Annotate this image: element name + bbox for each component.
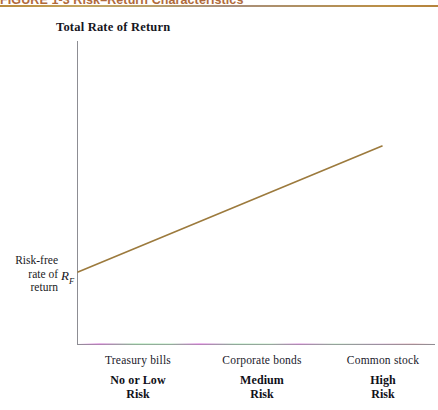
figure-top-rule [0,5,438,7]
category-risk-line1: High [330,373,436,387]
category-common-stock: Common stock High Risk [330,354,436,401]
total-return-line [78,146,382,272]
category-risk-label: High Risk [330,373,436,401]
risk-free-symbol-subscript: F [69,276,74,286]
x-axis-line [77,344,435,345]
category-risk-line2: Risk [330,387,436,401]
risk-free-symbol-letter: R [61,268,69,283]
category-risk-line1: No or Low [82,373,194,387]
category-risk-line1: Medium [206,373,318,387]
category-risk-label: No or Low Risk [82,373,194,401]
risk-free-label-line2: rate of [2,268,58,282]
risk-free-label-line3: return [2,281,58,295]
risk-free-rate-label: Risk-free rate of return [2,254,58,295]
y-axis-line [77,41,78,344]
category-instrument-label: Corporate bonds [206,354,318,366]
return-line-chart [0,0,438,410]
category-risk-line2: Risk [206,387,318,401]
category-risk-label: Medium Risk [206,373,318,401]
risk-free-label-line1: Risk-free [2,254,58,268]
y-axis-title: Total Rate of Return [56,20,170,35]
category-risk-line2: Risk [82,387,194,401]
risk-free-rate-symbol: RF [61,268,74,286]
category-corporate-bonds: Corporate bonds Medium Risk [206,354,318,401]
figure-container: FIGURE 1-3 Risk–Return Characteristics T… [0,0,438,410]
category-instrument-label: Treasury bills [82,354,194,366]
category-treasury-bills: Treasury bills No or Low Risk [82,354,194,401]
category-instrument-label: Common stock [330,354,436,366]
